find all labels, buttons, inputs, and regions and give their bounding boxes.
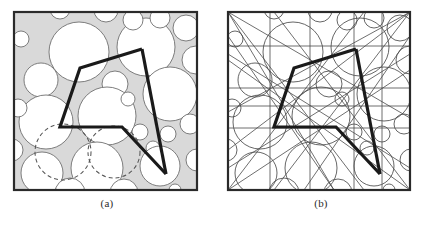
panel-a-caption: (a) (0, 196, 214, 210)
packing-circle (9, 99, 27, 117)
packing-circle (132, 124, 148, 140)
packing-circle (1, 139, 23, 161)
panel-b-background (228, 12, 410, 190)
packing-circle (121, 92, 135, 106)
panel-b: (b) (214, 0, 428, 226)
packing-circle (13, 31, 29, 47)
figure-root: (a) (0, 0, 428, 226)
packing-circle (50, 0, 70, 19)
packing-circle (24, 63, 58, 97)
packing-circle (160, 126, 176, 142)
panel-b-canvas (214, 0, 428, 200)
packing-a-content (1, 0, 210, 200)
panel-b-caption: (b) (214, 196, 428, 210)
packing-circle (19, 95, 73, 149)
panel-a-canvas (0, 0, 214, 200)
packing-circle (173, 15, 199, 41)
panel-a: (a) (0, 0, 214, 226)
